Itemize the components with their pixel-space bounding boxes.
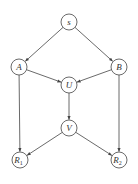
node-label: s	[67, 17, 71, 27]
edge-A-U-arrow	[27, 70, 61, 82]
edge-V-R1-arrow	[27, 132, 62, 155]
graph-diagram: sABUVR1R2	[0, 0, 138, 184]
node-label: A	[15, 62, 22, 72]
node-label: U	[66, 80, 73, 90]
node-R2: R2	[111, 152, 127, 168]
node-R1: R1	[12, 152, 28, 168]
edge-V-R2-arrow	[76, 132, 112, 155]
node-s: s	[61, 14, 77, 30]
node-B: B	[111, 59, 127, 75]
edge-B-U-arrow	[77, 70, 111, 82]
node-V: V	[61, 120, 77, 136]
node-U: U	[61, 77, 77, 93]
edge-s-B-arrow	[75, 27, 113, 61]
graph-svg: sABUVR1R2	[0, 0, 138, 184]
node-A: A	[11, 59, 27, 75]
nodes: sABUVR1R2	[11, 14, 127, 168]
edge-A-R1-arrow	[19, 75, 20, 152]
node-label: B	[116, 62, 122, 72]
edge-s-A-arrow	[25, 27, 63, 61]
